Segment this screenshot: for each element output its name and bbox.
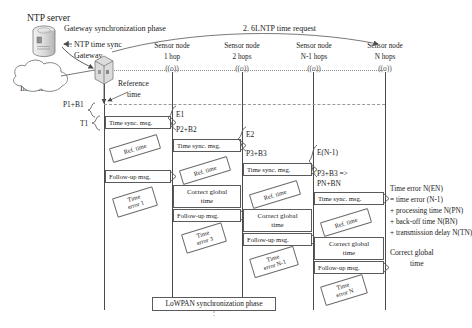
message-follow-up-3: Follow-up msg. [243, 233, 312, 246]
budget-label-pnbn: PN+BN [317, 180, 341, 188]
ref-time-block-2: Ref. time [179, 156, 231, 185]
antenna-icon-3: ((o)) [283, 64, 345, 73]
gateway-label: Gateway [74, 52, 102, 60]
ref-time-block-4: Ref. time [320, 208, 372, 237]
error-formula-line3: + processing time N(PN) [390, 207, 463, 215]
ref-time-2-label: Ref. time [193, 164, 217, 178]
lifeline-node-2 [242, 72, 243, 310]
lifeline-node-4 [385, 72, 386, 310]
cg-3-line1: Correct global [329, 240, 369, 248]
message-follow-up-2: Follow-up msg. [173, 209, 241, 222]
time-error-block-2: Time error 3 [181, 222, 227, 253]
step2-label: 2. 6LNTP time request [243, 25, 316, 33]
message-time-sync-2-label: Time sync. msg. [177, 142, 220, 149]
cg-1-line2: time [201, 197, 213, 205]
column-header-2-hops: 2 hops [212, 53, 272, 61]
column-header-4-name: Sensor node [355, 42, 415, 50]
column-header-3-name: Sensor node [283, 42, 345, 50]
correct-global-time-3-label: Correct global time [329, 240, 369, 256]
topology-dotted-line [104, 70, 385, 71]
correct-global-time-1-label: Correct global time [187, 188, 227, 204]
message-follow-up-4: Follow-up msg. [314, 261, 384, 274]
brace-p1b1 [88, 103, 95, 117]
ref-time-block-3: Ref. time [249, 180, 301, 209]
time-error-2-label: Time error 3 [194, 229, 214, 247]
reference-time-label-line2: time [127, 91, 141, 99]
step1-label: 1. NTP time sync [66, 41, 122, 49]
lowpan-phase-caption: LoWPAN synchronization phase [152, 297, 276, 311]
latency-label-en1: E(N-1) [317, 149, 338, 157]
message-follow-up-4-label: Follow-up msg. [318, 264, 360, 271]
arrow-tip-icon [239, 139, 246, 152]
error-formula-line1: Time error N(EN) [390, 185, 443, 193]
time-error-3-label: Time error N-1 [261, 252, 287, 272]
gateway-phase-label: Gateway synchronization phase [64, 25, 166, 33]
message-time-sync-4-label: Time sync. msg. [318, 195, 361, 202]
message-time-sync-1: Time sync. msg. [105, 116, 171, 129]
ref-time-1-label: Ref. time [123, 142, 147, 156]
reference-time-label-line1: Reference [118, 80, 149, 88]
arrow-reference-time [108, 92, 128, 101]
message-follow-up-3-label: Follow-up msg. [247, 236, 289, 243]
ntp-server-title: NTP server [27, 14, 70, 24]
column-header-3-hops: N-1 hops [283, 53, 345, 61]
arrow-tip-icon [382, 192, 389, 205]
arrow-tip-icon [382, 261, 389, 274]
budget-label-p2b2: P2+B2 [176, 126, 197, 134]
error-formula-line5: + transmission delay N(TN) [390, 229, 472, 237]
ref-time-block-1: Ref. time [109, 134, 161, 163]
message-time-sync-3: Time sync. msg. [243, 163, 312, 176]
time-error-1-label: Time error 1 [125, 193, 145, 211]
message-follow-up-2-label: Follow-up msg. [177, 212, 219, 219]
cg-2-line2: time [271, 221, 283, 229]
final-correct-global-time-line1: Correct global [390, 249, 434, 257]
lowpan-phase-caption-label: LoWPAN synchronization phase [165, 300, 262, 309]
error-formula-line2: = time error (N-1) [390, 196, 443, 204]
lifeline-gateway [104, 72, 105, 310]
cg-3-line2: time [343, 249, 355, 257]
column-header-1-name: Sensor node [142, 42, 202, 50]
time-error-block-1: Time error 1 [112, 186, 158, 217]
time-error-block-4: Time error N [320, 274, 368, 306]
cloud-gateway-link [61, 70, 95, 76]
brace-label-t1: T1 [80, 120, 88, 128]
message-follow-up-1-label: Follow-up msg. [109, 173, 151, 180]
arrow-tip-icon [169, 116, 176, 129]
cg-2-line1: Correct global [257, 212, 297, 220]
ref-time-3-label: Ref. time [263, 188, 287, 202]
message-follow-up-1: Follow-up msg. [105, 170, 171, 183]
correct-global-time-2-label: Correct global time [257, 212, 297, 228]
brace-label-p1b1: P1+B1 [63, 101, 84, 109]
message-time-sync-4: Time sync. msg. [314, 192, 384, 205]
lifeline-node-3 [313, 72, 314, 310]
correct-global-time-1: Correct global time [173, 185, 241, 208]
brace-t1 [92, 116, 100, 130]
final-correct-global-time-line2: time [410, 260, 424, 268]
budget-label-p3b3: P3+B3 [246, 150, 267, 158]
correct-global-time-3: Correct global time [314, 237, 384, 260]
internet-label: Internet [20, 84, 46, 93]
column-header-2-name: Sensor node [212, 42, 272, 50]
column-header-4-hops: N hops [355, 53, 415, 61]
message-time-sync-1-label: Time sync. msg. [109, 119, 152, 126]
arrow-tip-icon [310, 163, 317, 176]
message-time-sync-2: Time sync. msg. [173, 139, 241, 152]
error-formula-line4: + back-off time N(BN) [390, 218, 457, 226]
budget-label-p3b3-arrow: P3+B3 => [317, 170, 348, 178]
message-time-sync-3-label: Time sync. msg. [247, 166, 290, 173]
ntp-server-icon [33, 26, 55, 57]
latency-label-e1: E1 [176, 111, 184, 119]
arrow-tip-icon [169, 170, 176, 183]
correct-global-time-2: Correct global time [243, 209, 312, 232]
time-error-block-3: Time error N-1 [249, 246, 299, 279]
latency-label-e2: E2 [246, 131, 254, 139]
column-header-1-hops: 1 hop [142, 53, 202, 61]
cg-1-line1: Correct global [187, 188, 227, 196]
time-error-4-label: Time error N [333, 281, 354, 300]
reference-time-dashed-line [104, 104, 385, 105]
ref-time-4-label: Ref. time [334, 216, 358, 230]
